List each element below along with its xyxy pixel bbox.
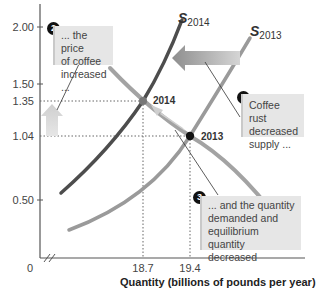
annotation-1-line3: supply ... bbox=[249, 138, 298, 151]
annotation-3-box: ... and the quantity demanded and equili… bbox=[200, 196, 301, 250]
supply-shift-arrow-icon bbox=[172, 45, 240, 71]
equilibrium-2014-label: 2014 bbox=[153, 95, 176, 106]
y-tick-150: 1.50 bbox=[13, 78, 34, 90]
s2014-label: S2014 bbox=[178, 10, 210, 28]
x-tick-194: 19.4 bbox=[179, 262, 200, 274]
annotation-1-line1: Coffee rust bbox=[249, 99, 298, 125]
movement-arrow-icon bbox=[151, 105, 185, 131]
annotation-2-box: ... the price of coffee increased ... bbox=[53, 26, 113, 65]
y-tick-050: 0.50 bbox=[13, 194, 34, 206]
equilibrium-2013-label: 2013 bbox=[201, 131, 224, 142]
x-tick-187: 18.7 bbox=[132, 262, 153, 274]
annotation-2-line1: ... the price bbox=[61, 29, 107, 55]
annotation-3-line1: ... and the quantity bbox=[208, 199, 295, 212]
annotation-2-line2: of coffee bbox=[61, 55, 107, 68]
annotation-2-line3: increased ... bbox=[61, 68, 107, 94]
y-tick-200: 2.00 bbox=[13, 21, 34, 33]
annotation-3-line4: decreased bbox=[208, 251, 295, 264]
equilibrium-2013-point bbox=[186, 132, 194, 140]
annotation-3-line2: demanded and bbox=[208, 212, 295, 225]
price-increase-arrow-icon bbox=[41, 104, 63, 136]
s2013-label: S2013 bbox=[250, 23, 282, 41]
equilibrium-2014-point bbox=[139, 97, 147, 105]
annotation-3-line3: equilibrium quantity bbox=[208, 225, 295, 251]
guide-lines bbox=[40, 101, 190, 258]
y-tick-104: 1.04 bbox=[13, 130, 34, 142]
annotation-1-box: Coffee rust decreased supply ... bbox=[241, 94, 304, 137]
x-tick-origin: 0 bbox=[27, 262, 33, 274]
annotation-1-line2: decreased bbox=[249, 125, 298, 138]
y-tick-135: 1.35 bbox=[13, 95, 34, 107]
x-axis-title: Quantity (billions of pounds per year) bbox=[120, 276, 316, 288]
